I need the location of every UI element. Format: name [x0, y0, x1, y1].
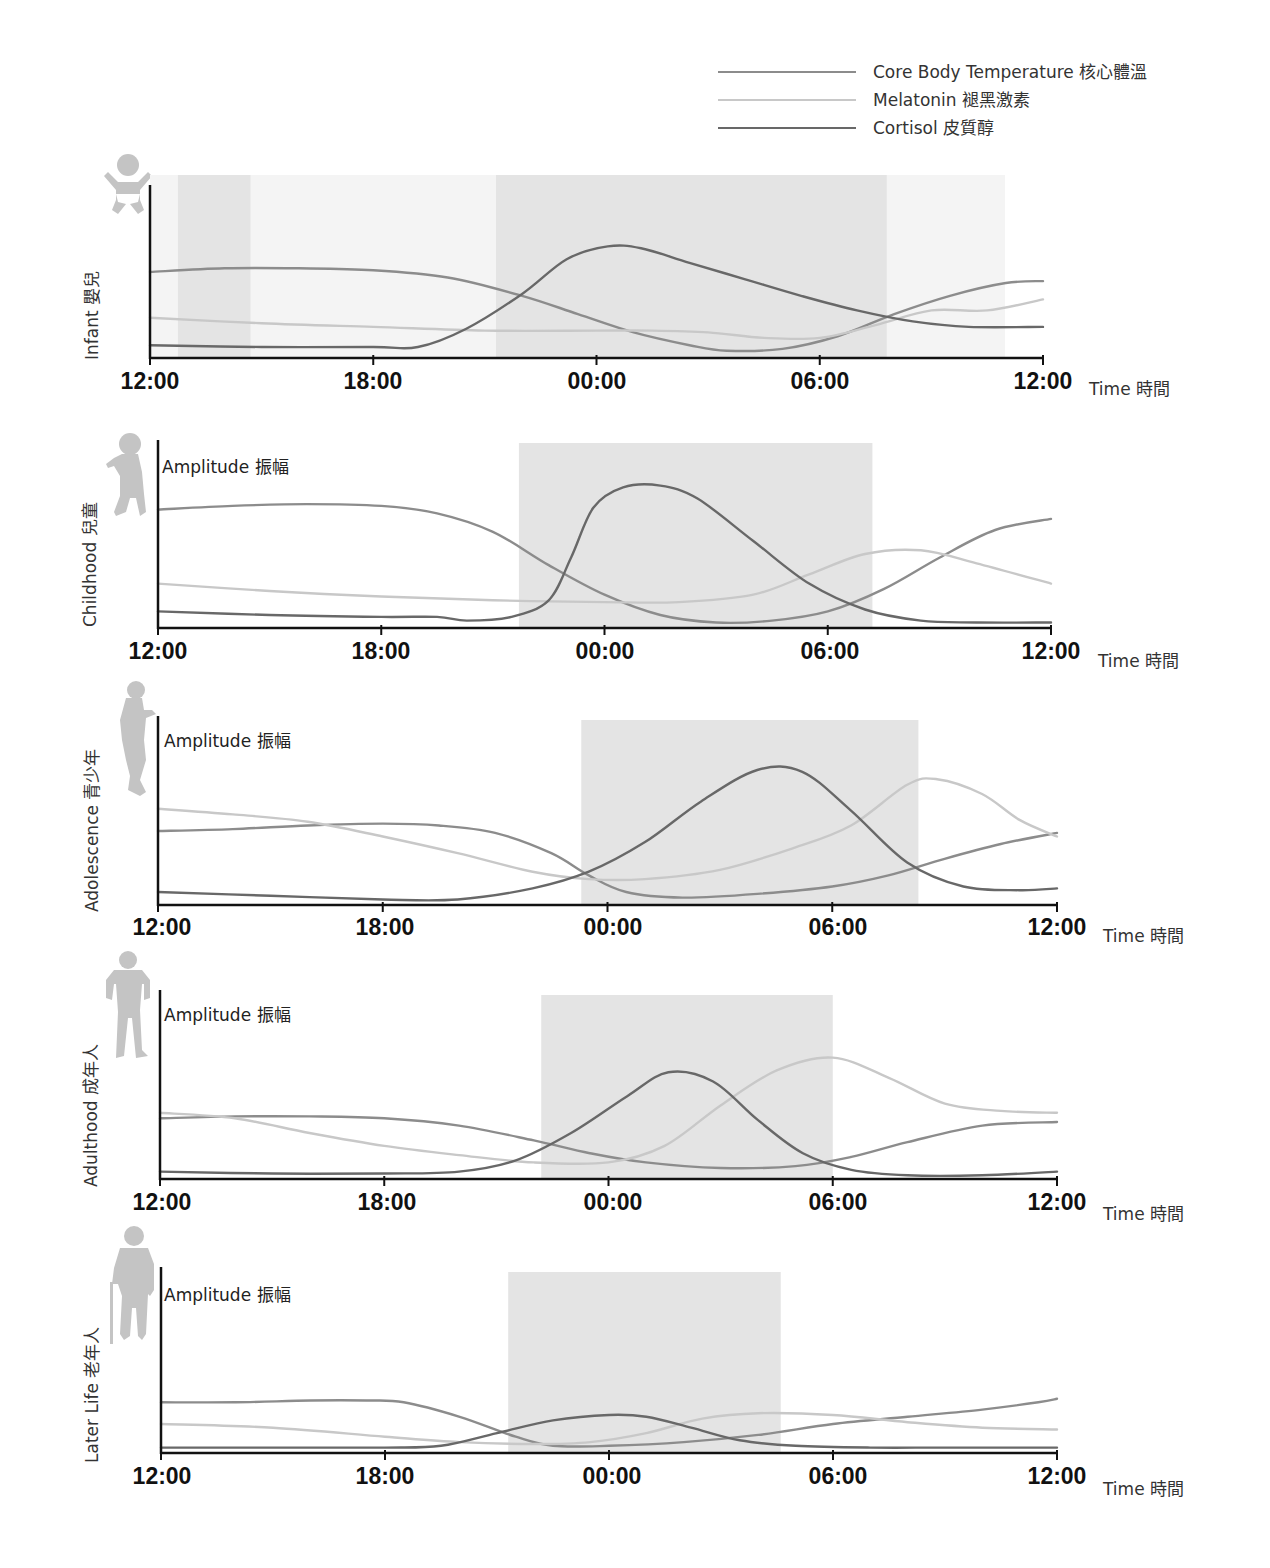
chart-plot-later-life: [0, 0, 1270, 1568]
x-axis-label: Time 時間: [1103, 1475, 1184, 1500]
x-tick-label: 12:00: [1028, 1463, 1087, 1490]
x-tick-label: 06:00: [809, 1463, 868, 1490]
x-tick-label: 12:00: [133, 1463, 192, 1490]
circadian-rhythm-figure: Core Body Temperature 核心體溫 Melatonin 褪黑激…: [0, 0, 1270, 1568]
x-tick-label: 18:00: [356, 1463, 415, 1490]
sleep-period-shade: [508, 1272, 781, 1453]
x-tick-label: 00:00: [583, 1463, 642, 1490]
